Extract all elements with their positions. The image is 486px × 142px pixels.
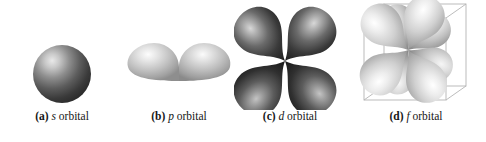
caption-word-f: orbital xyxy=(412,110,442,122)
caption-tag-d: (c) xyxy=(263,110,276,122)
caption-word-s: orbital xyxy=(59,110,89,122)
cube-edge-bottom-right xyxy=(446,86,466,100)
orbital-panel-d: (c) d orbital xyxy=(234,0,346,142)
caption-tag-s: (a) xyxy=(35,110,48,122)
cube-edge-top-right xyxy=(446,4,466,18)
orbital-shapes-figure: (a) s orbital xyxy=(0,0,486,142)
caption-tag-f: (d) xyxy=(389,110,403,122)
caption-d-orbital: (c) d orbital xyxy=(234,110,346,123)
p-orbital-illustration xyxy=(124,0,234,110)
p-orbital-lobe-right xyxy=(179,43,230,81)
caption-word-d: orbital xyxy=(287,110,317,122)
p-orbital-lobe-left xyxy=(128,43,179,81)
caption-tag-p: (b) xyxy=(151,110,165,122)
orbital-panel-s: (a) s orbital xyxy=(0,0,124,142)
caption-f-orbital: (d) f orbital xyxy=(346,110,486,123)
caption-p-orbital: (b) p orbital xyxy=(124,110,234,123)
d-orbital-illustration xyxy=(234,0,346,110)
f-orbital-illustration xyxy=(346,0,486,110)
s-orbital-sphere xyxy=(33,45,91,103)
orbital-panel-p: (b) p orbital xyxy=(124,0,234,142)
caption-s-orbital: (a) s orbital xyxy=(0,110,124,123)
s-orbital-illustration xyxy=(0,0,124,110)
caption-word-p: orbital xyxy=(177,110,207,122)
orbital-panel-f: (d) f orbital xyxy=(346,0,486,142)
